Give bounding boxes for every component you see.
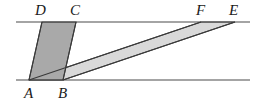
- vertex-label-e: E: [229, 3, 238, 18]
- vertex-label-c: C: [70, 3, 80, 18]
- vertex-label-d: D: [35, 3, 46, 18]
- segment-b-to-e: [63, 22, 235, 80]
- vertex-label-a: A: [24, 86, 33, 101]
- vertex-label-f: F: [196, 3, 205, 18]
- geometry-figure: D C F E A B: [0, 0, 265, 108]
- vertex-label-b: B: [58, 86, 67, 101]
